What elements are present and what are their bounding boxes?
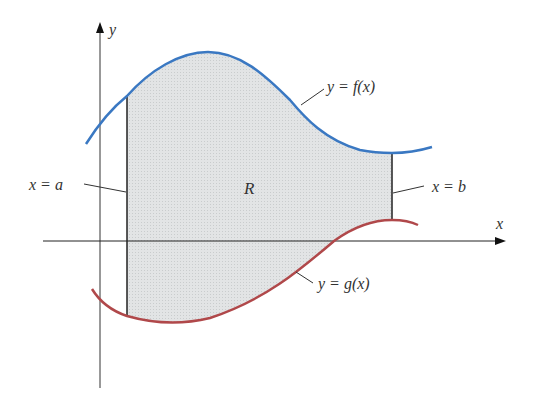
right-bound-label: x = b	[432, 179, 466, 195]
area-between-curves-figure: y x y = f(x) y = g(x) x = a x = b R	[0, 0, 534, 401]
upper-curve-label: y = f(x)	[327, 79, 375, 95]
y-axis-arrow-icon	[96, 22, 104, 33]
region-label: R	[244, 180, 254, 197]
x-axis-label: x	[496, 216, 503, 232]
lower-curve-label: y = g(x)	[318, 276, 370, 292]
y-axis-label: y	[109, 22, 116, 38]
x-axis-arrow-icon	[495, 237, 506, 245]
upper-curve-leader	[301, 89, 324, 105]
right-bound-leader	[393, 186, 424, 193]
left-bound-label: x = a	[29, 177, 63, 193]
left-bound-leader	[84, 184, 126, 192]
figure-canvas	[0, 0, 534, 401]
lower-curve-leader	[296, 272, 313, 283]
